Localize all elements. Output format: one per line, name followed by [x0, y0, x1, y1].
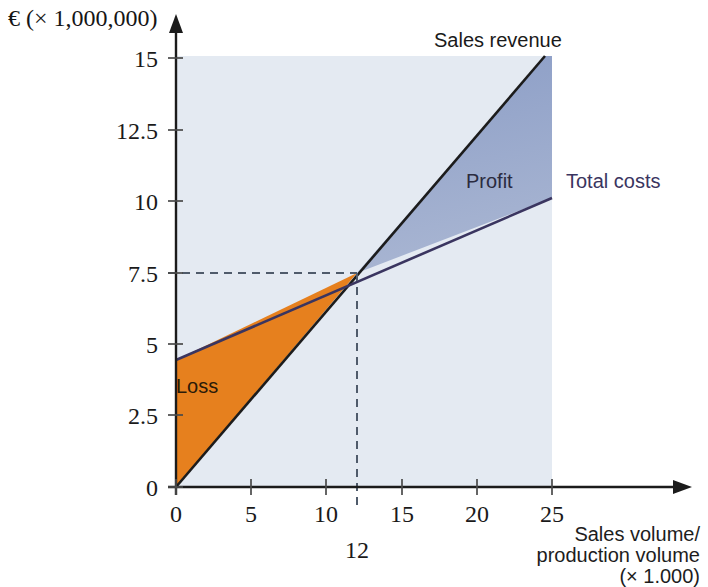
y-axis-title: € (× 1,000,000)	[8, 5, 158, 31]
chart-canvas: 0 2.5 5 7.5 10 12.5 15 0 5 10 15 20 25 1…	[0, 0, 708, 587]
y-tick-label-12.5: 12.5	[116, 118, 158, 144]
x-tick-label-5: 5	[245, 501, 257, 527]
y-axis-arrow	[169, 14, 183, 33]
x-axis-arrow	[673, 480, 692, 494]
profit-label: Profit	[466, 170, 513, 192]
y-tick-label-0: 0	[146, 475, 158, 501]
x-axis-title-line1: Sales volume/	[574, 523, 700, 545]
x-tick-label-25: 25	[540, 501, 564, 527]
x-tick-label-15: 15	[390, 501, 414, 527]
y-tick-label-2.5: 2.5	[128, 403, 158, 429]
x-tick-label-20: 20	[465, 501, 489, 527]
y-tick-label-15: 15	[134, 46, 158, 72]
break-even-chart: 0 2.5 5 7.5 10 12.5 15 0 5 10 15 20 25 1…	[0, 0, 708, 587]
total-costs-label: Total costs	[566, 170, 660, 192]
x-tick-label-10: 10	[314, 501, 338, 527]
y-tick-label-5: 5	[146, 332, 158, 358]
loss-label: Loss	[176, 375, 218, 397]
x-axis-title-line3: (× 1.000)	[619, 565, 700, 587]
x-axis-title-line2: production volume	[537, 544, 700, 566]
y-tick-label-10: 10	[134, 189, 158, 215]
sales-revenue-label: Sales revenue	[434, 29, 562, 51]
break-even-x-label: 12	[345, 537, 369, 563]
y-tick-label-7.5: 7.5	[128, 261, 158, 287]
x-tick-label-0: 0	[170, 501, 182, 527]
